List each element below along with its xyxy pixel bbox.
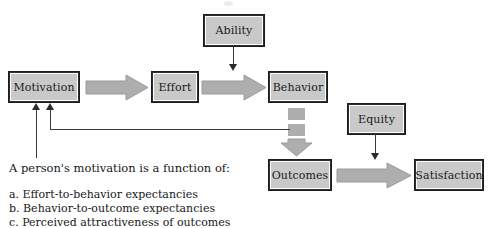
node-ability[interactable]: Ability [204,15,264,46]
node-effort[interactable]: Effort [152,72,198,102]
caption-list-item-a: a. Effort-to-behavior expectancies [9,189,198,200]
node-ability-label: Ability [216,25,253,36]
feedback-vertical-line [50,110,51,130]
expectancy-theory-diagram: Ability Motivation Effort Behavior Equit… [0,0,494,228]
caption-arrowhead-icon [32,103,40,110]
node-behavior[interactable]: Behavior [269,72,327,102]
node-satisfaction[interactable]: Satisfaction [415,160,483,190]
caption-heading: A person's motivation is a function of: [9,163,230,175]
node-behavior-label: Behavior [273,82,324,93]
feedback-horizontal-line [50,129,290,130]
node-equity[interactable]: Equity [348,104,405,134]
block-arrow-motivation-to-effort [86,75,148,100]
node-outcomes[interactable]: Outcomes [269,160,331,190]
node-outcomes-label: Outcomes [272,170,329,181]
node-motivation-label: Motivation [13,82,74,93]
feedback-arrowhead-icon [46,103,54,110]
segment-2 [288,124,305,136]
node-effort-label: Effort [158,82,191,93]
caption-list-item-b: b. Behavior-to-outcome expectancies [9,203,215,214]
caption-connector-line [36,110,37,158]
scan-artifact [224,1,233,6]
caption-list-item-c: c. Perceived attractiveness of outcomes [9,217,230,228]
node-satisfaction-label: Satisfaction [415,170,482,181]
segment-arrowhead [281,139,312,156]
node-motivation[interactable]: Motivation [9,72,79,102]
ability-arrowhead-icon [229,64,237,71]
node-equity-label: Equity [358,114,395,125]
block-arrow-effort-to-behavior [202,75,266,100]
equity-arrowhead-icon [371,153,379,160]
ability-connector-line [233,46,234,66]
segment-1 [288,108,305,120]
block-arrow-outcomes-to-satisfaction [337,163,411,188]
